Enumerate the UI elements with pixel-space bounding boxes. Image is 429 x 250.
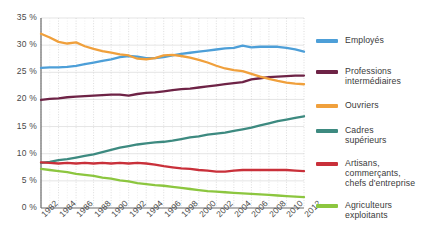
legend-color-swatch	[316, 129, 338, 133]
legend-item[interactable]: Ouvriers	[316, 100, 379, 110]
x-axis-tick-label: 2002	[214, 198, 235, 219]
x-axis-tick-label: 1986	[74, 198, 95, 219]
legend-item-label: Ouvriers	[345, 100, 379, 110]
legend-item-label: Artisans, commerçants, chefs d'entrepris…	[345, 158, 415, 189]
legend-item-label: Employés	[345, 35, 384, 45]
legend-item[interactable]: Artisans, commerçants, chefs d'entrepris…	[316, 158, 415, 189]
x-axis-tick-label: 2000	[197, 198, 218, 219]
x-axis-tick-label: 1984	[57, 198, 78, 219]
x-axis-tick-label: 2010	[284, 198, 305, 219]
legend-item[interactable]: Cadres supérieurs	[316, 125, 387, 145]
x-axis-tick-label: 2006	[249, 198, 270, 219]
x-axis-tick-label: 1990	[109, 198, 130, 219]
legend-color-swatch	[316, 104, 338, 108]
x-axis-tick-label: 2008	[267, 198, 288, 219]
x-axis-tick-label: 2004	[232, 198, 253, 219]
x-axis-tick-label: 1998	[179, 198, 200, 219]
x-axis-tick-label: 1996	[162, 198, 183, 219]
legend-item-label: Cadres supérieurs	[345, 125, 387, 145]
x-axis-tick-label: 1988	[92, 198, 113, 219]
x-axis-tick-label: 1982	[39, 198, 60, 219]
legend-item[interactable]: Employés	[316, 35, 384, 45]
legend-item[interactable]: Professions intermédiaires	[316, 66, 401, 86]
legend-color-swatch	[316, 204, 338, 208]
legend-color-swatch	[316, 162, 338, 166]
line-chart: 0 %5 %10 %15 %20 %25 %30 %35 % 198219841…	[0, 0, 429, 250]
legend-color-swatch	[316, 70, 338, 74]
legend-item-label: Professions intermédiaires	[345, 66, 401, 86]
legend-item[interactable]: Agriculteurs exploitants	[316, 200, 392, 220]
x-axis-tick-label: 1994	[144, 198, 165, 219]
legend-item-label: Agriculteurs exploitants	[345, 200, 392, 220]
chart-legend: EmployésProfessions intermédiairesOuvrie…	[316, 18, 428, 233]
x-axis-tick-label: 1992	[127, 198, 148, 219]
legend-color-swatch	[316, 39, 338, 43]
